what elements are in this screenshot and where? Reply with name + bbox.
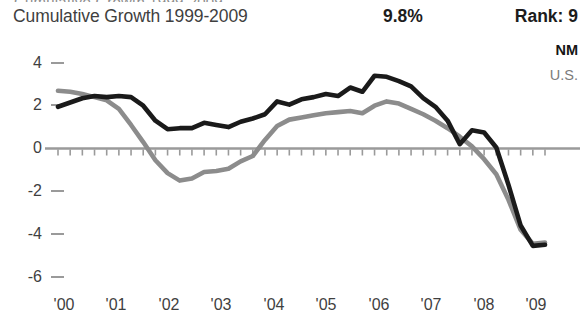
chart-figure: Cumulative Growth 1999-2009 Cumulative G… (0, 0, 586, 328)
series-layer (0, 0, 586, 328)
series-line-nm (58, 76, 545, 246)
series-line-us (58, 91, 545, 244)
plot-area: 4 2 0 -2 -4 -6 '00 '01 '02 '03 '04 '05 '… (0, 0, 586, 328)
zero-axis-ticks (58, 150, 545, 156)
